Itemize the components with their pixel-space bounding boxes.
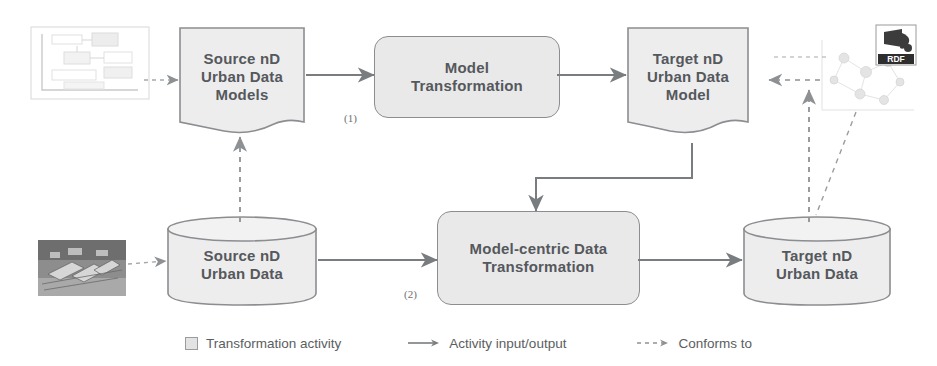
legend-item-activity-input-output: Activity input/output — [407, 336, 566, 351]
node-target-model[interactable]: Target nD Urban Data Model — [626, 26, 750, 138]
legend-item-conforms-to: Conforms to — [636, 336, 752, 351]
legend-item-activity-input-output-label: Activity input/output — [449, 336, 566, 351]
legend-item-conforms-to-label: Conforms to — [678, 336, 752, 351]
rdf-graph-thumbnail: RDF — [814, 24, 922, 116]
urban-aerial-photo-thumbnail — [38, 240, 126, 296]
schema-document-thumbnail — [30, 26, 150, 100]
node-model-transformation-label: Model Transformation — [411, 59, 523, 96]
dashed-arrow-icon — [636, 337, 670, 349]
node-source-models[interactable]: Source nD Urban Data Models — [178, 26, 306, 138]
node-source-data[interactable]: Source nD Urban Data — [166, 215, 318, 307]
step-label-two: (2) — [404, 288, 417, 300]
legend: Transformation activity Activity input/o… — [0, 328, 937, 358]
edge-target-model-to-model-centric-transformation — [536, 143, 692, 211]
solid-arrow-icon — [407, 337, 441, 349]
rdf-logo-text: RDF — [887, 54, 904, 64]
node-target-data[interactable]: Target nD Urban Data — [742, 215, 892, 307]
legend-item-transformation-activity: Transformation activity — [185, 336, 341, 351]
node-model-centric-transformation[interactable]: Model-centric Data Transformation — [437, 211, 640, 305]
node-model-centric-transformation-label: Model-centric Data Transformation — [470, 240, 608, 277]
legend-square-icon — [185, 337, 198, 350]
step-label-one: (1) — [344, 112, 357, 124]
legend-item-transformation-activity-label: Transformation activity — [206, 336, 341, 351]
rdf-logo-icon: RDF — [876, 25, 916, 65]
edge-aerial-photo-to-source-data — [128, 261, 166, 264]
edge-rdf-graph-to-target-data — [816, 112, 856, 215]
node-model-transformation[interactable]: Model Transformation — [374, 36, 560, 118]
diagram-canvas: RDF — [0, 0, 937, 366]
